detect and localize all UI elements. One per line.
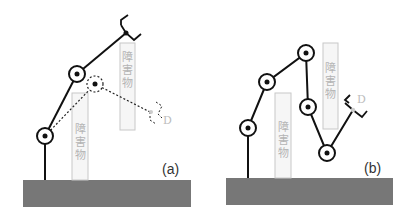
obstacle-text: 物	[278, 146, 289, 160]
obstacle-a-upper: 障 害 物	[120, 43, 135, 130]
end-effector-joint	[351, 108, 355, 112]
end-effector-joint	[124, 31, 129, 36]
panel-a: 障 害 物 障 害 物 D	[23, 15, 191, 207]
target-label-d: D	[163, 114, 172, 127]
joint-b-3	[298, 45, 314, 61]
joint-b-4	[300, 99, 316, 115]
ghost-arm-a: D	[45, 76, 172, 136]
obstacle-text: 障	[325, 61, 336, 75]
joint-b-5	[319, 145, 335, 161]
obstacle-text: 障	[75, 122, 86, 136]
robot-arm-diagram: 障 害 物 障 害 物 D	[0, 0, 414, 221]
obstacle-text: 害	[278, 133, 289, 147]
obstacle-text: 害	[122, 63, 133, 77]
joint-a-1	[37, 128, 53, 144]
obstacle-text: 物	[122, 76, 133, 90]
panel-label-a: (a)	[162, 161, 179, 177]
obstacle-b-upper: 障 害 物	[323, 43, 338, 129]
arm-b: D	[240, 45, 367, 178]
obstacle-b-lower: 障 害 物	[275, 93, 291, 178]
obstacle-text: 害	[325, 74, 336, 88]
panel-b: 障 害 物 障 害 物 D	[226, 43, 393, 205]
panel-label-b: (b)	[364, 160, 381, 176]
ground-b	[226, 178, 393, 205]
joint-b-1	[240, 120, 256, 136]
ground-a	[23, 180, 191, 207]
joint-b-2	[259, 74, 275, 90]
target-label-d: D	[357, 93, 366, 106]
obstacle-text: 物	[325, 87, 336, 101]
joint-a-2	[69, 66, 85, 82]
obstacle-text: 物	[75, 148, 86, 162]
obstacle-text: 障	[278, 120, 289, 134]
obstacle-text: 害	[75, 135, 86, 149]
obstacle-text: 障	[122, 50, 133, 64]
